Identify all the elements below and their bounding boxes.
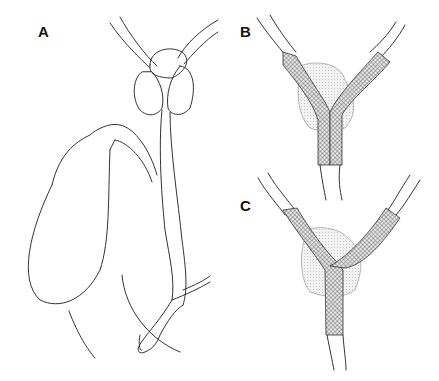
biliary-stent-diagram: A B C [0, 0, 439, 381]
duodenum-wall-left [69, 311, 95, 358]
panel-b-side-by-side-stents [257, 15, 405, 200]
panel-label-a: A [38, 23, 49, 40]
gallbladder [28, 150, 110, 304]
duodenum-wall [122, 275, 180, 352]
hilar-mass-left [134, 72, 163, 115]
panel-a-anatomy [28, 17, 218, 358]
right-stent [330, 52, 390, 165]
panel-label-c: C [240, 197, 251, 214]
panel-label-b: B [240, 23, 251, 40]
cystic-duct-top [52, 124, 157, 185]
panel-c-stent-in-stent [258, 173, 420, 370]
